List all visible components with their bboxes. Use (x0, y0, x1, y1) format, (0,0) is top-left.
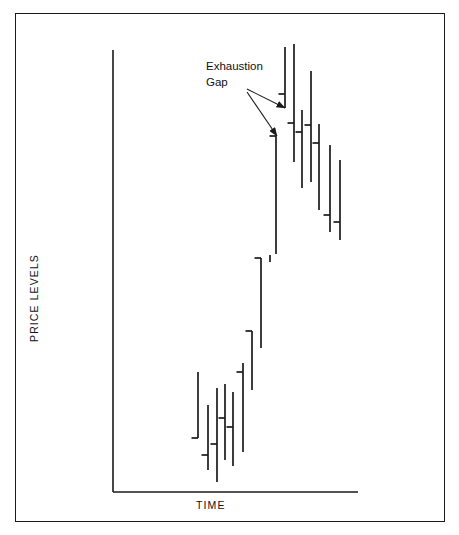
price-bar (219, 384, 226, 460)
price-bars-group (192, 44, 341, 482)
price-bar (288, 44, 295, 162)
price-bar (255, 258, 262, 348)
exhaustion-gap-arrows (247, 89, 285, 136)
chart-axes (113, 50, 358, 492)
price-bar (246, 331, 253, 390)
price-bar (270, 136, 277, 254)
price-bar (313, 124, 320, 210)
chart-figure: PRICE LEVELS TIME Exhaustion Gap (0, 0, 459, 535)
price-bar (334, 160, 341, 240)
x-axis-label: TIME (196, 499, 225, 511)
price-bar (296, 110, 303, 188)
price-bar (279, 47, 286, 108)
price-bar (192, 372, 199, 438)
y-axis-label: PRICE LEVELS (28, 238, 40, 358)
price-bar (305, 71, 312, 182)
annotation-arrow-2 (247, 92, 277, 136)
price-bar (227, 392, 234, 466)
price-bar (324, 145, 331, 232)
exhaustion-gap-annotation-label: Exhaustion Gap (206, 59, 263, 90)
annotation-arrow-1 (247, 89, 285, 108)
price-bar (211, 388, 218, 482)
price-bar (202, 405, 209, 470)
price-bar (237, 363, 244, 452)
